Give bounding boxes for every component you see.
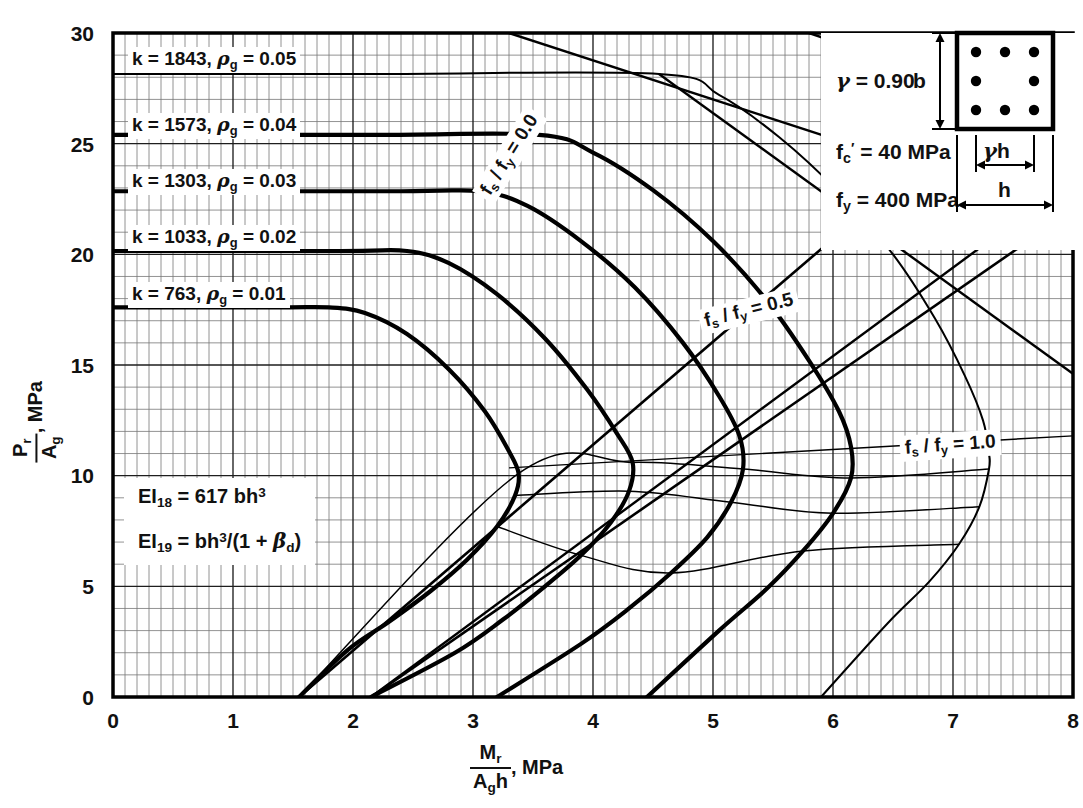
- rho-sub-003: g: [230, 179, 238, 194]
- beta-symbol: β: [273, 529, 286, 553]
- ei-formula-box: EI18 = 617 bh3 EI19 = bh3/(1 + βd): [124, 478, 315, 565]
- rho-symbol-001: ρ: [206, 282, 219, 304]
- curve-label-k-001: k = 763,: [132, 283, 201, 304]
- curve-label-rho-001: k = 763, ρg = 0.01: [128, 282, 290, 308]
- ei-19-sub: 19: [157, 540, 172, 555]
- x-axis-numer: M: [480, 741, 497, 763]
- rho-sub-002: g: [230, 235, 238, 250]
- curve-label-val-003: = 0.03: [243, 170, 296, 191]
- rho-symbol-004: ρ: [217, 113, 230, 135]
- x-tick-8: 8: [1053, 709, 1083, 733]
- fs-slash-10: /: [918, 435, 935, 457]
- y-tick-0: 0: [48, 686, 94, 710]
- x-axis-denom-tail: h: [496, 770, 508, 792]
- gamma-h-h: h: [997, 139, 1010, 162]
- x-tick-7: 7: [933, 709, 973, 733]
- x-axis-title: Mr Agh , MPa: [470, 742, 563, 795]
- y-tick-5: 5: [48, 575, 94, 599]
- curve-label-rho-005: k = 1843, ρg = 0.05: [128, 47, 300, 73]
- fy-sub: y: [843, 198, 851, 214]
- curve-label-rho-004: k = 1573, ρg = 0.04: [128, 113, 300, 139]
- chart-canvas: 30 25 20 15 10 5 0 0 1 2 3 4 5 6 7 8 Pr …: [0, 0, 1083, 808]
- ei-18-name: EI: [138, 485, 157, 507]
- fy-symbol: f: [836, 188, 843, 211]
- fc-symbol: f: [836, 140, 843, 163]
- curve-label-k-005: k = 1843,: [132, 48, 212, 69]
- ei-19-name: EI: [138, 530, 157, 552]
- x-tick-0: 0: [93, 709, 133, 733]
- rho-symbol-003: ρ: [217, 169, 230, 191]
- dim-label-h: h: [998, 178, 1011, 202]
- ei-18-line: EI18 = 617 bh3: [138, 486, 301, 509]
- curve-label-val-004: = 0.04: [243, 114, 296, 135]
- curve-label-rho-003: k = 1303, ρg = 0.03: [128, 169, 300, 195]
- curve-label-rho-002: k = 1033, ρg = 0.02: [128, 225, 300, 251]
- gamma-param: γ = 0.90: [836, 68, 915, 93]
- y-tick-30: 30: [48, 22, 94, 46]
- gamma-h-symbol: γ: [983, 138, 997, 163]
- x-tick-4: 4: [573, 709, 613, 733]
- curve-label-k-004: k = 1573,: [132, 114, 212, 135]
- rho-symbol-002: ρ: [217, 225, 230, 247]
- ei-18-rest: = 617 bh: [172, 485, 258, 507]
- curve-label-k-002: k = 1033,: [132, 226, 212, 247]
- x-tick-5: 5: [693, 709, 733, 733]
- rho-sub-005: g: [230, 57, 238, 72]
- x-tick-2: 2: [333, 709, 373, 733]
- gamma-value: = 0.90: [850, 69, 915, 92]
- y-axis-numer-sub: r: [19, 438, 34, 443]
- ei-19-sup: 3: [219, 531, 227, 546]
- dim-label-b: b: [913, 69, 926, 93]
- x-axis-denom: A: [473, 770, 487, 792]
- x-tick-3: 3: [453, 709, 493, 733]
- y-tick-25: 25: [48, 133, 94, 157]
- curve-label-k-003: k = 1303,: [132, 170, 212, 191]
- y-axis-denom-sub: g: [48, 436, 63, 444]
- beta-sub: d: [286, 540, 294, 555]
- fc-value: = 40 MPa: [854, 140, 950, 163]
- y-tick-20: 20: [48, 243, 94, 267]
- gamma-symbol: γ: [836, 68, 850, 93]
- fc-param: fc′ = 40 MPa: [836, 140, 951, 166]
- fy-value: = 400 MPa: [851, 188, 959, 211]
- fc-sub: c: [843, 150, 851, 166]
- y-axis-numer: P: [9, 444, 31, 457]
- curve-label-val-005: = 0.05: [243, 48, 296, 69]
- ei-19-line: EI19 = bh3/(1 + βd): [138, 531, 301, 554]
- rho-sub-001: g: [219, 292, 227, 307]
- rho-symbol-005: ρ: [217, 47, 230, 69]
- ei-19-rest-c: ): [295, 530, 302, 552]
- fy-param: fy = 400 MPa: [836, 188, 959, 214]
- ei-19-rest-a: = bh: [172, 530, 219, 552]
- x-axis-unit: , MPa: [511, 756, 563, 778]
- x-axis-numer-sub: r: [496, 751, 501, 766]
- x-tick-6: 6: [813, 709, 853, 733]
- x-axis-denom-sub: g: [487, 780, 495, 795]
- rho-sub-004: g: [230, 123, 238, 138]
- x-tick-1: 1: [213, 709, 253, 733]
- curve-label-val-002: = 0.02: [243, 226, 296, 247]
- y-axis-title: Pr Ag , MPa: [10, 347, 63, 497]
- ei-18-sub: 18: [157, 495, 172, 510]
- ei-19-rest-b: /(1 +: [227, 530, 273, 552]
- ei-18-sup: 3: [258, 485, 266, 500]
- curve-label-val-001: = 0.01: [232, 283, 285, 304]
- dim-label-gamma-h: γh: [983, 138, 1010, 163]
- fs-eq-10: = 1.0: [947, 430, 996, 454]
- y-axis-unit: , MPa: [24, 381, 46, 433]
- y-axis-denom: A: [39, 445, 61, 459]
